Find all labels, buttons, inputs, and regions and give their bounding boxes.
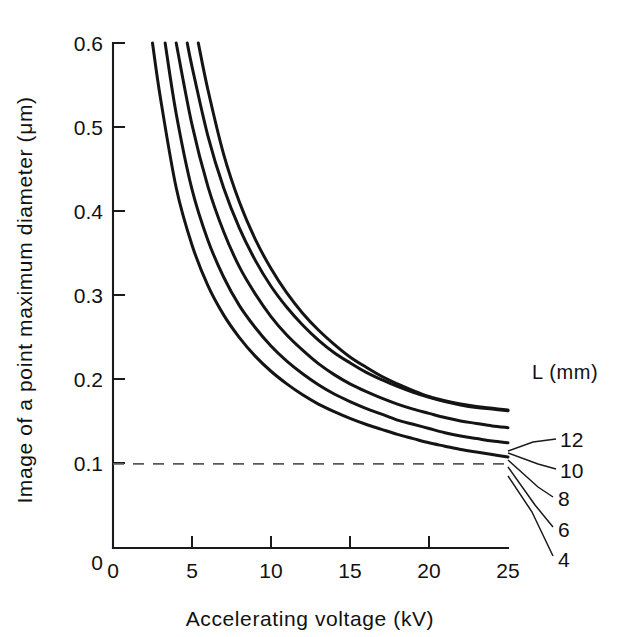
y-ticklabel-0.1: 0.1: [74, 452, 103, 475]
x-ticklabel-20: 20: [417, 559, 440, 582]
x-ticklabel-5: 5: [186, 559, 198, 582]
data-curves: [153, 43, 509, 457]
leader-line-L6: [508, 467, 553, 527]
y-ticklabel-0.5: 0.5: [74, 116, 103, 139]
legend-labels: 12 10 8 6 4: [558, 428, 583, 571]
legend-leader-lines: [508, 439, 556, 556]
y-ticklabel-0: 0: [91, 551, 103, 574]
legend-label-6: 6: [558, 518, 570, 541]
figure-container: 0.6 0.5 0.4 0.3 0.2 0.1 0 0 5 10 15 20 2…: [0, 0, 621, 637]
y-axis-ticklabels: 0.6 0.5 0.4 0.3 0.2 0.1 0: [74, 32, 104, 574]
chart-canvas: 0.6 0.5 0.4 0.3 0.2 0.1 0 0 5 10 15 20 2…: [0, 0, 621, 637]
x-axis-ticks: [192, 536, 429, 548]
y-axis-title: Image of a point maximum diameter (μm): [13, 96, 36, 503]
y-ticklabel-0.2: 0.2: [74, 368, 103, 391]
curve-L12: [198, 43, 508, 410]
x-ticklabel-10: 10: [259, 559, 282, 582]
y-ticklabel-0.4: 0.4: [74, 200, 104, 223]
y-axis-ticks: [113, 43, 125, 463]
legend-label-4: 4: [558, 548, 570, 571]
curve-L8: [176, 43, 508, 428]
legend-label-12: 12: [560, 428, 583, 451]
legend-label-10: 10: [560, 459, 583, 482]
leader-line-L4: [508, 476, 553, 556]
y-ticklabel-0.3: 0.3: [74, 284, 103, 307]
curve-L4: [153, 43, 509, 457]
x-axis-ticklabels: 0 5 10 15 20 25: [107, 559, 520, 582]
x-axis-title: Accelerating voltage (kV): [186, 607, 434, 630]
leader-line-L12: [508, 439, 556, 451]
x-ticklabel-0: 0: [107, 559, 119, 582]
legend-title: L (mm): [532, 361, 598, 383]
legend-label-8: 8: [558, 487, 570, 510]
x-ticklabel-15: 15: [338, 559, 361, 582]
y-ticklabel-0.6: 0.6: [74, 32, 103, 55]
x-ticklabel-25: 25: [496, 559, 519, 582]
curve-L6: [165, 43, 508, 443]
